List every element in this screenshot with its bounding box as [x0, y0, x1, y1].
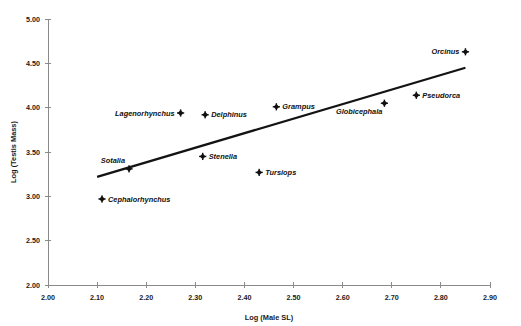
trendline-segment: [97, 68, 465, 177]
data-point-marker-arm-v: [258, 169, 259, 176]
data-point: Delphinus: [202, 110, 247, 119]
x-tick-label: 2.80: [434, 293, 448, 302]
data-points: CephalorhynchusSotaliaLagenorhynchusSten…: [98, 47, 469, 203]
x-tick-label: 2.40: [237, 293, 251, 302]
scatter-chart-figure: 2.002.102.202.302.402.502.602.702.802.90…: [0, 0, 521, 326]
data-point: Cephalorhynchus: [98, 195, 170, 204]
data-point-marker-arm-v: [465, 48, 466, 55]
y-tick-label: 3.50: [26, 148, 40, 157]
data-point-marker-arm-v: [202, 153, 203, 160]
x-tick-label: 2.60: [336, 293, 350, 302]
axis-titles: Log (Male SL) Log (Testis Mass): [9, 121, 294, 322]
data-point: Globicephala: [336, 100, 388, 117]
regression-trendline: [97, 68, 465, 177]
y-axis-title: Log (Testis Mass): [9, 121, 18, 183]
plot-canvas: 2.002.102.202.302.402.502.602.702.802.90…: [0, 0, 521, 326]
x-tick-label: 2.30: [188, 293, 202, 302]
data-point-label: Stenella: [209, 152, 237, 161]
data-point: Lagenorhynchus: [115, 109, 184, 118]
data-point: Grampus: [273, 102, 315, 111]
tick-labels: 2.002.102.202.302.402.502.602.702.802.90…: [26, 15, 497, 302]
axes: [45, 19, 490, 288]
x-tick-label: 2.50: [287, 293, 301, 302]
data-point-label: Delphinus: [211, 110, 247, 119]
data-point: Orcinus: [432, 47, 470, 56]
data-point: Tursiops: [256, 168, 297, 177]
y-tick-label: 2.50: [26, 236, 40, 245]
data-point-marker-arm-v: [416, 92, 417, 99]
data-point-marker-arm-v: [384, 100, 385, 107]
data-point-label: Orcinus: [432, 47, 460, 56]
y-tick-label: 4.50: [26, 59, 40, 68]
data-point-marker-arm-v: [204, 111, 205, 118]
data-point-marker-arm-v: [128, 165, 129, 172]
data-point: Pseudorca: [413, 91, 460, 100]
data-point-marker-arm-v: [180, 109, 181, 116]
data-point: Stenella: [199, 152, 237, 161]
y-tick-label: 2.00: [26, 281, 40, 290]
data-point-label: Grampus: [282, 102, 314, 111]
x-tick-label: 2.00: [41, 293, 55, 302]
data-point-label: Sotalia: [101, 156, 125, 165]
x-tick-label: 2.70: [385, 293, 399, 302]
x-tick-label: 2.20: [139, 293, 153, 302]
data-point-label: Cephalorhynchus: [108, 195, 170, 204]
data-point-label: Tursiops: [265, 168, 296, 177]
data-point-label: Pseudorca: [422, 91, 460, 100]
y-tick-label: 4.00: [26, 103, 40, 112]
y-tick-label: 5.00: [26, 15, 40, 24]
data-point-marker-arm-v: [101, 195, 102, 202]
x-axis-title: Log (Male SL): [245, 313, 294, 322]
x-tick-label: 2.10: [90, 293, 104, 302]
x-tick-label: 2.90: [483, 293, 497, 302]
data-point-label: Lagenorhynchus: [115, 109, 175, 118]
data-point-label: Globicephala: [336, 107, 382, 116]
y-tick-label: 3.00: [26, 192, 40, 201]
data-point-marker-arm-v: [276, 103, 277, 110]
